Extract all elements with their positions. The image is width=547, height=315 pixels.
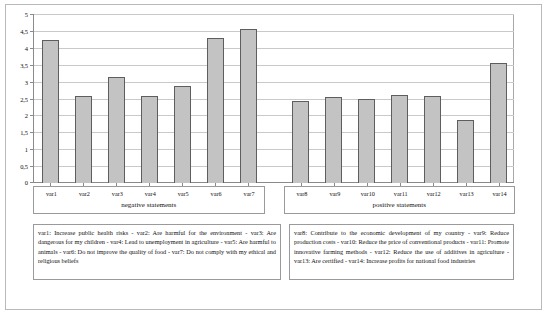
category-label-var5: var5 [178, 190, 189, 197]
bar-var3 [108, 77, 125, 183]
bar-var11 [391, 95, 408, 183]
y-axis-label: 5 [25, 11, 28, 18]
y-axis-label: 4 [25, 44, 28, 51]
category-box-negative: var1var2var3var4var5var6var7 negative st… [33, 186, 265, 214]
category-label-var1: var1 [46, 190, 57, 197]
category-box-positive: var8var9var10var11var12var13var14 positi… [284, 186, 516, 214]
y-axis-label: 3,5 [20, 61, 28, 68]
y-axis-label: 0 [25, 179, 28, 186]
y-axis-label: 4,5 [20, 27, 28, 34]
bar-var1 [42, 40, 59, 183]
legend-positive-statements: var8: Contribute to the economic develop… [289, 224, 514, 280]
category-label-var8: var8 [296, 190, 307, 197]
bar-var5 [174, 86, 191, 183]
group-title-negative: negative statements [34, 201, 264, 209]
group-title-positive: positive statements [285, 201, 515, 209]
category-label-var7: var7 [244, 190, 255, 197]
bar-var12 [424, 96, 441, 183]
category-label-var12: var12 [427, 190, 441, 197]
chart-page: 00,511,522,533,544,55 var1var2var3var4va… [0, 0, 547, 315]
bar-var6 [207, 38, 224, 183]
y-axis-label: 1 [25, 146, 28, 153]
category-label-var6: var6 [211, 190, 222, 197]
bar-var8 [292, 101, 309, 183]
bar-var10 [358, 99, 375, 183]
bar-var7 [240, 29, 257, 183]
bar-var14 [490, 63, 507, 183]
plot-area: 00,511,522,533,544,55 [33, 14, 514, 183]
y-axis-label: 0,5 [20, 163, 28, 170]
y-axis-label: 1,5 [20, 129, 28, 136]
bar-var2 [75, 96, 92, 183]
category-label-var2: var2 [79, 190, 90, 197]
bar-var13 [457, 120, 474, 183]
category-labels-negative: var1var2var3var4var5var6var7 [34, 187, 264, 201]
y-axis-label: 2,5 [20, 95, 28, 102]
legend-negative-statements: var1: Increase public health risks - var… [33, 224, 281, 280]
category-label-var11: var11 [394, 190, 408, 197]
y-axis-label: 3 [25, 78, 28, 85]
bars-layer [34, 14, 514, 183]
category-labels-positive: var8var9var10var11var12var13var14 [285, 187, 515, 201]
category-label-var9: var9 [329, 190, 340, 197]
category-label-var13: var13 [460, 190, 474, 197]
category-label-var10: var10 [361, 190, 375, 197]
bar-var9 [325, 97, 342, 183]
category-label-var3: var3 [112, 190, 123, 197]
category-label-var4: var4 [145, 190, 156, 197]
category-label-var14: var14 [492, 190, 506, 197]
y-axis-label: 2 [25, 112, 28, 119]
bar-var4 [141, 96, 158, 183]
